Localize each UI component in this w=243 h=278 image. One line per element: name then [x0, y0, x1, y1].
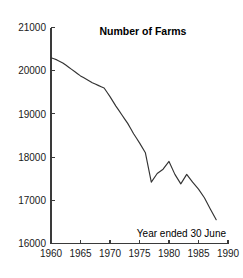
y-tick-label: 18000 — [18, 152, 46, 163]
chart-annotation: Year ended 30 June — [137, 228, 227, 239]
chart-page: 160001700018000190002000021000 196019651… — [0, 0, 243, 278]
x-tick-label: 1985 — [187, 248, 210, 259]
y-tick-label: 21000 — [18, 22, 46, 33]
y-axis-ticks — [51, 28, 55, 244]
x-axis-ticks — [51, 240, 228, 244]
farms-series-line — [51, 58, 216, 220]
y-tick-label: 20000 — [18, 65, 46, 76]
x-tick-label: 1990 — [217, 248, 240, 259]
x-axis-tick-labels: 1960196519701975198019851990 — [40, 248, 240, 259]
chart-title: Number of Farms — [100, 25, 187, 37]
x-tick-label: 1980 — [158, 248, 181, 259]
x-tick-label: 1970 — [99, 248, 122, 259]
x-tick-label: 1965 — [69, 248, 92, 259]
y-axis-tick-labels: 160001700018000190002000021000 — [18, 22, 46, 249]
plot-axes — [51, 28, 228, 244]
y-tick-label: 19000 — [18, 109, 46, 120]
y-tick-label: 17000 — [18, 195, 46, 206]
farms-line-chart: 160001700018000190002000021000 196019651… — [0, 0, 243, 278]
x-tick-label: 1960 — [40, 248, 63, 259]
x-tick-label: 1975 — [128, 248, 151, 259]
